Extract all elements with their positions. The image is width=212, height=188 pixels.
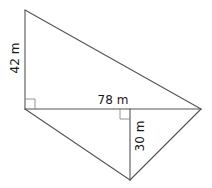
lower-left-side <box>25 109 130 180</box>
right-angle-marker-left <box>25 99 35 109</box>
geometry-diagram: 42 m 78 m 30 m <box>0 0 212 188</box>
right-angle-marker-foot <box>120 109 130 119</box>
label-78m: 78 m <box>98 93 129 107</box>
label-30m: 30 m <box>133 121 147 152</box>
label-42m: 42 m <box>8 43 22 74</box>
